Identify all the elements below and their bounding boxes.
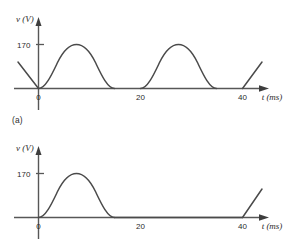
chart-full-wave-rectified: v (V) 170 0 20 40 t (ms) (0, 0, 299, 112)
x-tick-label-20: 20 (136, 93, 145, 102)
waveform-trailing-segment (243, 62, 263, 89)
y-axis-arrow-icon (36, 146, 42, 155)
y-tick-label-170: 170 (17, 41, 31, 50)
x-axis-arrow-icon (259, 214, 269, 220)
waveform-leading-segment (18, 62, 39, 89)
x-tick-label-0: 0 (36, 222, 41, 231)
waveform-arch-1 (39, 174, 115, 218)
waveform-trailing-segment (243, 189, 263, 218)
x-tick-label-20: 20 (136, 222, 145, 231)
x-axis-arrow-icon (259, 85, 269, 91)
x-axis-label-symbol: t (ms) (262, 92, 283, 102)
x-tick-label-0: 0 (36, 93, 41, 102)
chart-half-wave-rectified: v (V) 170 0 20 40 t (ms) (0, 131, 299, 243)
waveform-arch-1 (39, 45, 115, 89)
waveform-arch-2 (141, 45, 217, 89)
y-axis-arrow-icon (36, 17, 42, 26)
y-axis-label-symbol: v (V) (16, 143, 34, 153)
x-tick-label-40: 40 (238, 222, 247, 231)
y-axis-label-symbol: v (V) (16, 14, 34, 24)
x-tick-label-40: 40 (238, 93, 247, 102)
y-tick-label-170: 170 (17, 170, 31, 179)
figure-caption-a: (a) (12, 115, 23, 125)
figure-container: v (V) 170 0 20 40 t (ms) (a) v (V) 170 (0, 0, 299, 243)
x-axis-label-symbol: t (ms) (262, 221, 283, 231)
